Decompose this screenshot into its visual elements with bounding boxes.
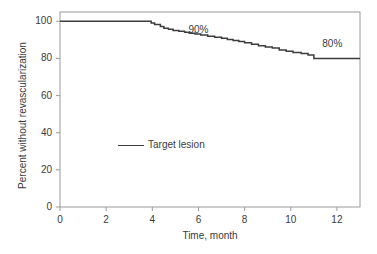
y-axis-title: Percent without revascularization <box>17 16 28 216</box>
y-tick-label: 20 <box>8 165 52 175</box>
y-tick-label: 80 <box>8 53 52 63</box>
x-tick-label: 0 <box>57 215 63 225</box>
x-tick-label: 6 <box>196 215 202 225</box>
x-tick-label: 8 <box>242 215 248 225</box>
y-tick-label: 0 <box>8 202 52 212</box>
y-tick-label: 60 <box>8 91 52 101</box>
legend-line-swatch <box>118 145 144 146</box>
chart-annotation-label: 90% <box>188 25 208 35</box>
chart-annotation-label: 80% <box>322 39 342 49</box>
y-tick-label: 40 <box>8 128 52 138</box>
legend-label-target-lesion: Target lesion <box>148 140 205 150</box>
y-axis-ticks <box>56 21 60 207</box>
series-line-target-lesion <box>60 21 360 58</box>
y-tick-label: 100 <box>8 16 52 26</box>
kaplan-meier-chart: 020406080100 024681012 90%80% Percent wi… <box>0 0 377 254</box>
x-axis-title: Time, month <box>60 230 360 241</box>
plot-frame <box>60 12 360 207</box>
x-tick-label: 12 <box>331 215 342 225</box>
chart-legend: Target lesion <box>118 140 205 150</box>
x-axis-ticks <box>60 207 337 211</box>
x-tick-label: 4 <box>150 215 156 225</box>
x-tick-label: 10 <box>285 215 296 225</box>
x-tick-label: 2 <box>103 215 109 225</box>
